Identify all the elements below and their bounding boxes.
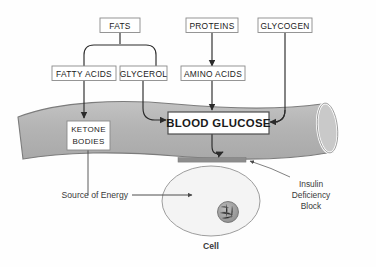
cell-nucleus — [218, 202, 239, 223]
box-blood-glucose-label: BLOOD GLUCOSE — [166, 117, 271, 129]
arrow-insulin-block — [250, 161, 290, 177]
box-blood-glucose: BLOOD GLUCOSE — [166, 112, 271, 134]
cell-shape — [162, 166, 260, 236]
box-fatty-acids-label: FATTY ACIDS — [56, 69, 112, 79]
diagram-canvas: FATS PROTEINS GLYCOGEN FATTY ACIDS GLYCE… — [0, 0, 376, 267]
metabolism-diagram: FATS PROTEINS GLYCOGEN FATTY ACIDS GLYCE… — [0, 0, 376, 267]
box-glycerol: GLYCEROL — [120, 66, 167, 81]
box-proteins-label: PROTEINS — [189, 21, 234, 31]
fats-split-bracket — [84, 45, 156, 66]
box-glycogen: GLYCOGEN — [258, 18, 312, 33]
box-fats: FATS — [100, 18, 140, 33]
box-ketone-bodies-label-line1: KETONE — [71, 125, 106, 134]
box-proteins: PROTEINS — [186, 18, 238, 33]
box-fats-label: FATS — [109, 21, 131, 31]
box-glycogen-label: GLYCOGEN — [260, 21, 309, 31]
label-insulin-deficiency-line1: Insulin — [299, 179, 324, 189]
label-cell: Cell — [203, 241, 219, 251]
box-ketone-bodies-label-line2: BODIES — [72, 137, 104, 146]
label-insulin-deficiency-line3: Block — [301, 201, 322, 211]
box-glycerol-label: GLYCEROL — [120, 69, 167, 79]
label-insulin-deficiency-line2: Deficiency — [292, 190, 331, 200]
box-amino-acids-label: AMINO ACIDS — [184, 69, 242, 79]
box-fatty-acids: FATTY ACIDS — [52, 66, 116, 81]
insulin-deficiency-block-bar — [178, 158, 246, 163]
box-amino-acids: AMINO ACIDS — [181, 66, 245, 81]
label-source-of-energy: Source of Energy — [62, 190, 129, 200]
box-ketone-bodies: KETONE BODIES — [67, 121, 110, 150]
